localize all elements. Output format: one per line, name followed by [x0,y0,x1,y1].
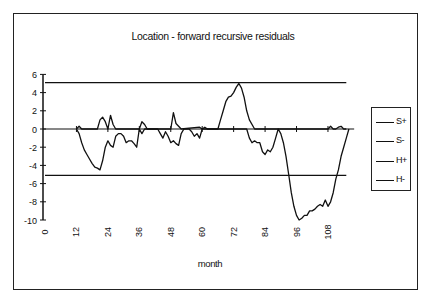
x-axis-tick-labels: 01224364860728496108 [40,224,333,239]
legend-item-s-plus: S+ [376,116,410,128]
series-lines [45,83,349,220]
series-s-minusplus [76,84,346,130]
legend-label: H+ [396,155,407,165]
legend: S+ S- H+ H- [371,107,411,191]
x-tick-label: 48 [166,227,176,237]
x-tick-label: 60 [197,227,207,237]
legend-line-icon [376,122,394,123]
y-tick-label: 4 [32,88,37,98]
x-tick-label: 12 [71,227,81,237]
legend-item-h-plus: H+ [376,155,410,167]
series-s-minus [76,129,349,220]
x-tick-label: 72 [229,227,239,237]
x-tick-label: 108 [323,224,333,239]
legend-label: S- [396,135,404,145]
x-tick-label: 96 [292,227,302,237]
y-tick-label: 2 [32,106,37,116]
legend-label: S+ [396,116,406,126]
legend-line-icon [376,161,394,162]
legend-label: H- [396,174,405,184]
legend-item-s-minus: S- [376,135,410,147]
y-axis-tick-labels: 6420-2-4-6-8-10 [24,70,37,226]
legend-item-h-minus: H- [376,174,410,186]
y-tick-label: -8 [29,197,37,207]
y-tick-label: 0 [32,125,37,135]
x-tick-label: 0 [40,229,50,234]
y-tick-label: -2 [29,143,37,153]
x-tick-label: 24 [103,227,113,237]
x-axis-label: month [170,258,250,269]
axes [40,74,354,220]
legend-line-icon [376,141,394,142]
y-tick-label: -4 [29,161,37,171]
x-tick-label: 36 [134,227,144,237]
y-tick-label: 6 [32,70,37,80]
legend-line-icon [376,180,394,181]
y-tick-label: -6 [29,179,37,189]
y-tick-label: -10 [24,216,37,226]
x-tick-label: 84 [260,227,270,237]
